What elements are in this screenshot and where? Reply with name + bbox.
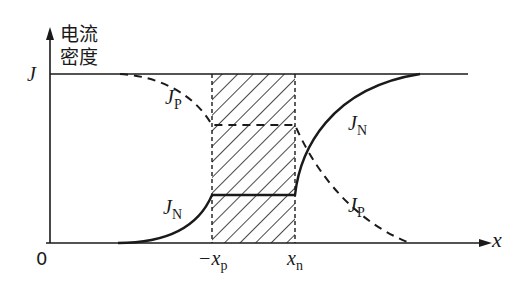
x-axis-label: x: [492, 229, 502, 251]
jn-label-sub: N: [357, 123, 367, 138]
xn-label: xn: [287, 248, 303, 273]
jn-label-text: J: [348, 112, 357, 134]
minus-xp-label: −xp: [198, 248, 227, 273]
xn-text: x: [287, 247, 296, 269]
jp-label-sub: P: [174, 97, 182, 112]
minus-xp-sub: p: [220, 258, 227, 273]
jp-label-upper-left: JP: [165, 87, 182, 112]
jp-label-text: J: [165, 86, 174, 108]
y-axis-arrow-icon: [46, 27, 54, 40]
y-axis-label-line2: 密度: [60, 48, 98, 67]
x-axis-arrow-icon: [479, 239, 492, 247]
depletion-region-hatch: [212, 74, 295, 243]
minus-xp-text: −x: [198, 247, 220, 269]
j-tick-label: J: [27, 64, 36, 84]
jn-label-lower-left: JN: [163, 197, 182, 222]
jn-label-sub: N: [172, 207, 182, 222]
y-axis-label-line1: 电流: [60, 25, 98, 44]
jp-label-sub: P: [357, 205, 365, 220]
jn-label-upper-right: JN: [348, 113, 367, 138]
jp-label-text: J: [348, 194, 357, 216]
jn-label-text: J: [163, 196, 172, 218]
origin-label: 0: [36, 250, 47, 268]
jp-label-lower-right: JP: [348, 195, 365, 220]
xn-sub: n: [296, 258, 303, 273]
